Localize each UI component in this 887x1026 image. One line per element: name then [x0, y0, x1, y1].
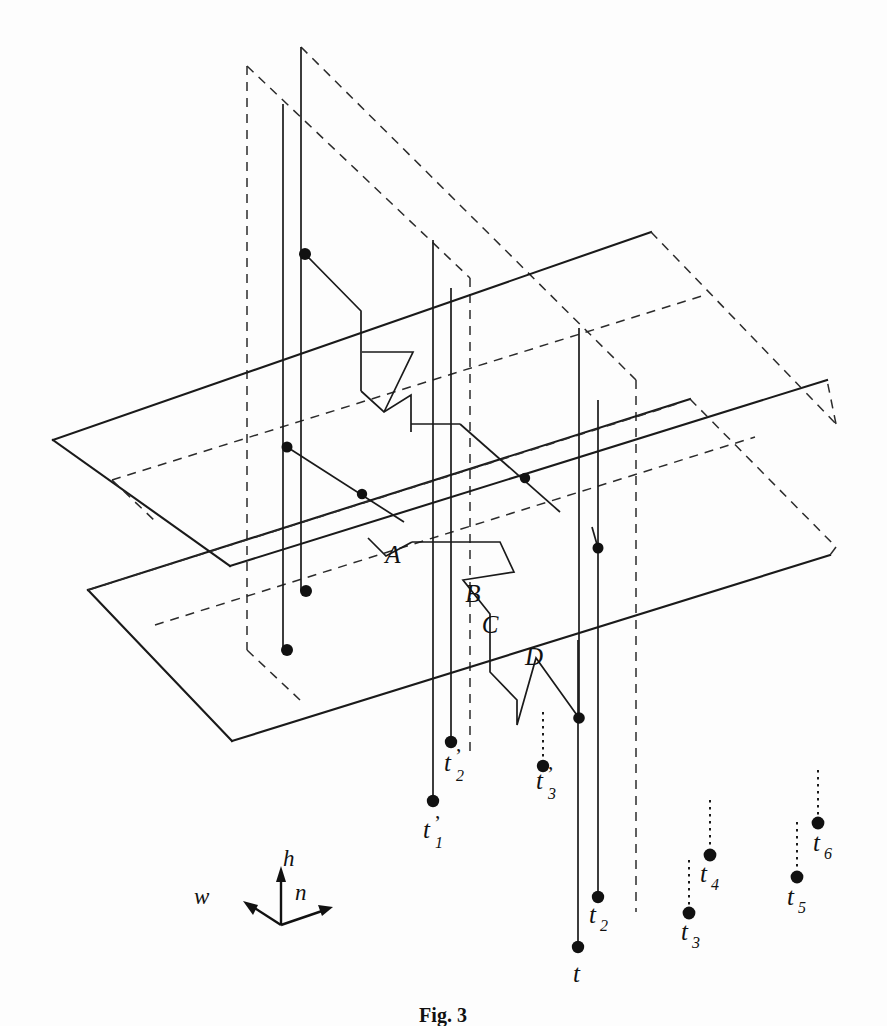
prime-mark: ’	[434, 811, 441, 835]
node-dot	[593, 543, 604, 554]
prime-mark: ’	[547, 762, 554, 786]
label-C: C	[482, 611, 499, 638]
node-dot	[300, 585, 312, 597]
figure-caption: Fig. 3	[419, 1004, 467, 1026]
node-dot-t	[572, 941, 584, 953]
axis-label-w: w	[194, 884, 210, 909]
trace-label-subscript: 1	[435, 834, 443, 851]
node-dot	[520, 473, 530, 483]
node-dot	[357, 489, 367, 499]
axis-label-n: n	[295, 880, 307, 905]
canvas-background	[0, 0, 887, 1026]
isometric-diagram: A B C D t ’ 1 t ’ 2 t ’ 3 t t 2 t 3 t 4 …	[0, 0, 887, 1026]
trace-label-subscript: 3	[691, 934, 700, 951]
node-dot	[282, 442, 293, 453]
trace-label-base: t	[444, 749, 452, 776]
trace-label-subscript: 2	[600, 917, 608, 934]
trace-label-subscript: 4	[711, 876, 719, 893]
trace-label-subscript: 2	[456, 767, 464, 784]
node-dot-t1-prime	[427, 795, 439, 807]
trace-label-base: t	[787, 883, 795, 910]
prime-mark: ’	[455, 744, 462, 768]
node-dot	[573, 712, 585, 724]
trace-label-base: t	[681, 918, 689, 945]
node-dot-t6	[812, 817, 825, 830]
trace-label-t: t	[573, 960, 581, 987]
trace-label-base: t	[813, 829, 821, 856]
figure-container: A B C D t ’ 1 t ’ 2 t ’ 3 t t 2 t 3 t 4 …	[0, 0, 887, 1026]
trace-label-base: t	[573, 960, 581, 987]
trace-label-base: t	[536, 767, 544, 794]
node-dot-t5	[791, 871, 804, 884]
trace-label-base: t	[423, 816, 431, 843]
trace-label-base: t	[589, 901, 597, 928]
label-A: A	[383, 541, 401, 568]
label-D: D	[524, 643, 543, 670]
axis-label-h: h	[283, 846, 295, 871]
trace-label-base: t	[700, 860, 708, 887]
label-B: B	[465, 580, 480, 607]
trace-label-subscript: 3	[547, 785, 556, 802]
trace-label-subscript: 6	[824, 845, 832, 862]
trace-label-subscript: 5	[798, 899, 806, 916]
node-dot	[299, 248, 311, 260]
node-dot	[281, 644, 293, 656]
